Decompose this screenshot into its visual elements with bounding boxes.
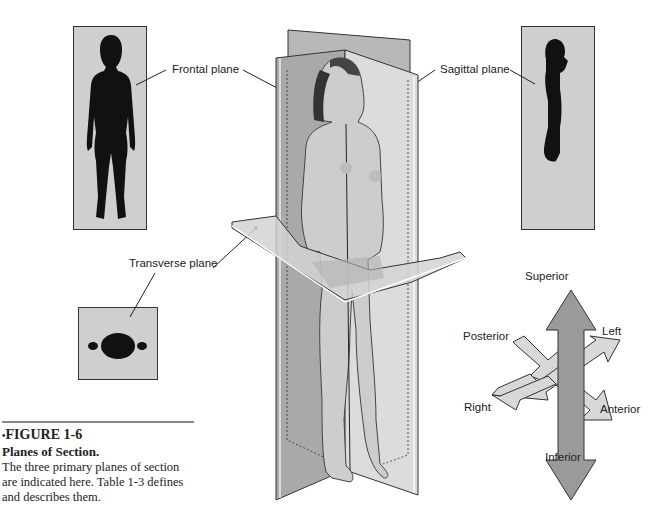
anterior-label: Anterior [600, 403, 640, 415]
figure-description: The three primary planes of section are … [2, 460, 194, 505]
right-label: Right [464, 401, 491, 413]
left-label: Left [602, 325, 621, 337]
superior-label: Superior [525, 270, 568, 282]
caption-rule [2, 421, 194, 423]
direction-arrows-icon [492, 290, 620, 500]
inferior-label: Inferior [545, 451, 581, 463]
figure-number-text: FIGURE 1-6 [6, 427, 83, 442]
posterior-label: Posterior [463, 330, 509, 342]
figure-caption: •FIGURE 1-6 Planes of Section. The three… [2, 421, 194, 505]
figure-title: Planes of Section. [2, 444, 194, 460]
figure-number: •FIGURE 1-6 [2, 427, 194, 444]
